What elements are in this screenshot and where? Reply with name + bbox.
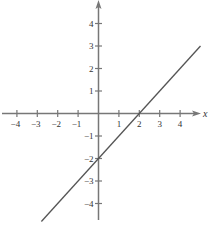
x-tick-label: −1 — [72, 119, 82, 129]
x-tick-label: −3 — [31, 119, 41, 129]
x-tick-label: 1 — [117, 119, 122, 129]
y-tick-label: −4 — [84, 199, 94, 209]
x-axis-label: x — [202, 108, 208, 119]
x-tick-label: −4 — [11, 119, 21, 129]
y-tick-label: −3 — [84, 176, 94, 186]
x-tick-label: 3 — [157, 119, 162, 129]
y-tick-label: 2 — [89, 64, 94, 74]
x-tick-label: 2 — [137, 119, 142, 129]
x-tick-label: −2 — [51, 119, 61, 129]
y-tick-label: 4 — [89, 19, 94, 29]
y-tick-label: 3 — [89, 41, 94, 51]
x-tick-label: 4 — [178, 119, 183, 129]
y-tick-label: 1 — [89, 86, 94, 96]
y-tick-label: −2 — [84, 154, 94, 164]
plot-series — [41, 46, 200, 222]
y-tick-label: −1 — [84, 131, 94, 141]
line-series — [41, 46, 200, 222]
graph: −4−3−2−11234 4321−1−2−3−4 x — [0, 0, 211, 228]
